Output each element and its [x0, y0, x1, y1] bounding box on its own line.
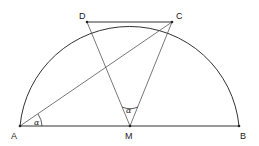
label-A: A	[11, 131, 17, 141]
diagram: A M B C D α α	[0, 0, 259, 146]
angle-label-M: α	[126, 106, 132, 115]
label-C: C	[176, 11, 183, 21]
angle-label-A: α	[34, 118, 40, 127]
point-M	[129, 125, 132, 128]
segment-AC	[20, 22, 172, 126]
label-B: B	[240, 131, 246, 141]
label-D: D	[79, 11, 86, 21]
point-D	[86, 21, 89, 24]
point-A	[19, 125, 22, 128]
segment-MD	[87, 22, 130, 126]
label-M: M	[125, 131, 133, 141]
semicircle-figure: A M B C D α α	[0, 0, 259, 146]
point-C	[171, 21, 174, 24]
point-B	[238, 125, 241, 128]
segment-MC	[130, 22, 172, 126]
